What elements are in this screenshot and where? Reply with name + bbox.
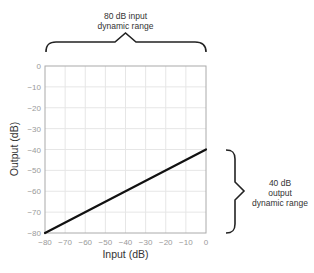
y-tick-label: −30 [27,125,41,134]
y-axis-label: Output (dB) [8,122,20,176]
x-tick-labels: −80−70−60−50−40−30−20−100 [38,238,209,247]
input-range-label-line2: dynamic range [98,21,154,31]
y-tick-label: −50 [27,166,41,175]
y-tick-label: −20 [27,104,41,113]
chart: −80−70−60−50−40−30−20−100 0−10−20−30−40−… [0,0,314,273]
x-tick-label: −70 [58,238,72,247]
input-range-brace [46,33,206,52]
x-tick-label: 0 [204,238,209,247]
output-range-label-line3: dynamic range [252,198,308,208]
x-tick-label: −40 [119,238,133,247]
x-axis-label: Input (dB) [102,248,148,260]
x-tick-label: −20 [159,238,173,247]
y-tick-label: −10 [27,83,41,92]
grid [45,66,206,233]
y-tick-labels: 0−10−20−30−40−50−60−70−80 [27,62,41,238]
x-tick-label: −50 [99,238,113,247]
y-tick-label: −60 [27,187,41,196]
output-range-label-line2: output [268,188,292,198]
y-tick-label: −40 [27,146,41,155]
x-tick-label: −10 [179,238,193,247]
input-range-label-line1: 80 dB input [104,11,148,21]
y-tick-label: 0 [37,62,42,71]
y-tick-label: −70 [27,208,41,217]
output-range-label-line1: 40 dB [269,178,292,188]
output-range-brace [226,150,244,233]
x-tick-label: −30 [139,238,153,247]
y-tick-label: −80 [27,229,41,238]
x-tick-label: −80 [38,238,52,247]
x-tick-label: −60 [78,238,92,247]
